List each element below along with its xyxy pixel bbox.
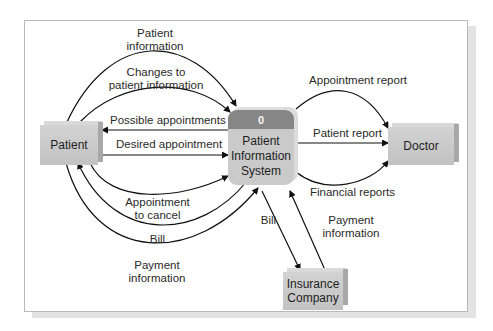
entity-side — [343, 269, 348, 305]
label-line: Payment — [122, 259, 192, 272]
label-line: patient information — [106, 79, 206, 92]
label-line: information — [120, 40, 190, 53]
label-patient-report: Patient report — [310, 127, 385, 140]
label-payment-insurance: Payment information — [316, 214, 386, 240]
label-bill-patient: Bill — [140, 233, 175, 246]
entity-patient[interactable]: Patient — [40, 121, 104, 165]
entity-face: Insurance Company — [283, 272, 343, 310]
flow-appointment-to-cancel — [90, 163, 228, 194]
label-line: Appointment — [120, 196, 195, 209]
entity-face: Patient — [40, 125, 98, 165]
label-patient-information: Patient information — [120, 27, 190, 53]
label-desired-appointment: Desired appointment — [116, 138, 216, 151]
process-title-line: Patient — [228, 134, 294, 149]
label-possible-appointments: Possible appointments — [110, 114, 220, 127]
label-appointment-report: Appointment report — [308, 74, 408, 87]
flow-financial-reports — [296, 161, 388, 185]
entity-doctor-label: Doctor — [403, 139, 438, 153]
label-line: Changes to — [106, 66, 206, 79]
process-title-line: System — [228, 164, 294, 179]
label-changes-patient-information: Changes to patient information — [106, 66, 206, 92]
entity-patient-label: Patient — [50, 138, 87, 152]
label-line: information — [316, 227, 386, 240]
process-number: 0 — [228, 110, 294, 129]
flow-appointment-report — [296, 91, 388, 128]
label-line: information — [122, 272, 192, 285]
label-bill-insurance: Bill — [256, 214, 281, 227]
label-line: to cancel — [120, 209, 195, 222]
process-title: Patient Information System — [228, 129, 294, 179]
entity-insurance-label-line2: Company — [287, 291, 340, 305]
process-title-line: Information — [228, 149, 294, 164]
entity-insurance-label-line1: Insurance — [287, 277, 340, 291]
process-patient-information-system[interactable]: 0 Patient Information System — [228, 110, 294, 185]
label-line: Patient — [120, 27, 190, 40]
label-financial-reports: Financial reports — [310, 186, 395, 199]
label-appointment-to-cancel: Appointment to cancel — [120, 196, 195, 222]
entity-doctor[interactable]: Doctor — [388, 123, 460, 165]
label-payment-patient: Payment information — [122, 259, 192, 285]
entity-side — [98, 122, 103, 162]
entity-side — [454, 124, 459, 162]
entity-insurance-company[interactable]: Insurance Company — [283, 268, 349, 308]
entity-face: Doctor — [388, 127, 454, 165]
label-line: Payment — [316, 214, 386, 227]
process-body: 0 Patient Information System — [228, 110, 294, 185]
flow-bill-insurance — [262, 191, 300, 270]
